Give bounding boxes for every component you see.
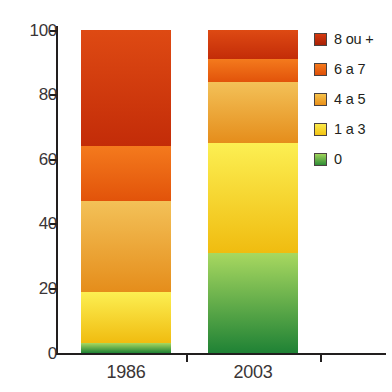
legend-swatch-icon — [314, 93, 327, 106]
y-tick-mark-100 — [50, 30, 57, 32]
x-tick-label-2003: 2003 — [208, 362, 298, 383]
y-axis-line — [56, 26, 58, 355]
legend-item-label: 6 a 7 — [334, 61, 365, 77]
bar-segment-1986-1-a-3 — [81, 292, 171, 344]
legend-item-1-a-3[interactable]: 1 a 3 — [314, 114, 392, 144]
y-tick-mark-80 — [50, 94, 57, 96]
legend-swatch-icon — [314, 123, 327, 136]
stacked-bar-chart: 100 80 60 40 20 0 1986 2003 8 ou +6 a 74… — [0, 0, 392, 392]
y-tick-mark-20 — [50, 288, 57, 290]
legend-item-label: 4 a 5 — [334, 91, 365, 107]
bar-segment-2003-8-ou-plus — [208, 30, 298, 59]
bar-segment-1986-0 — [81, 343, 171, 353]
y-tick-label-0: 0 — [13, 344, 57, 364]
y-tick-mark-60 — [50, 159, 57, 161]
y-tick-mark-40 — [50, 223, 57, 225]
x-tick-mark-1 — [186, 355, 188, 362]
legend-swatch-icon — [314, 33, 327, 46]
legend-item-8-ou-plus[interactable]: 8 ou + — [314, 24, 392, 54]
chart-legend: 8 ou +6 a 74 a 51 a 30 — [314, 24, 392, 174]
bar-2003 — [208, 30, 298, 353]
legend-item-4-a-5[interactable]: 4 a 5 — [314, 84, 392, 114]
bar-segment-2003-4-a-5 — [208, 82, 298, 143]
legend-item-6-a-7[interactable]: 6 a 7 — [314, 54, 392, 84]
bar-1986 — [81, 30, 171, 353]
bar-segment-1986-6-a-7 — [81, 146, 171, 201]
bar-segment-1986-8-ou-plus — [81, 30, 171, 146]
legend-item-0[interactable]: 0 — [314, 144, 392, 174]
x-axis-line — [56, 353, 386, 355]
legend-swatch-icon — [314, 153, 327, 166]
bar-segment-2003-0 — [208, 253, 298, 353]
legend-item-label: 0 — [334, 151, 342, 167]
x-tick-label-1986: 1986 — [81, 362, 171, 383]
legend-item-label: 8 ou + — [334, 31, 374, 47]
bar-segment-1986-4-a-5 — [81, 201, 171, 291]
bar-segment-2003-6-a-7 — [208, 59, 298, 82]
legend-swatch-icon — [314, 63, 327, 76]
legend-item-label: 1 a 3 — [334, 121, 365, 137]
x-tick-mark-2 — [320, 355, 322, 362]
bar-segment-2003-1-a-3 — [208, 143, 298, 253]
